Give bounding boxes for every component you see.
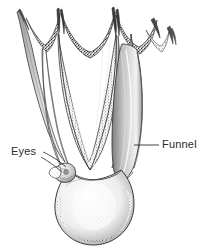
label-eyes: Eyes bbox=[11, 146, 36, 157]
cephalopod-illustration bbox=[0, 0, 209, 248]
label-funnel: Funnel bbox=[162, 139, 197, 150]
illustration-figure: Eyes Funnel bbox=[0, 0, 209, 248]
